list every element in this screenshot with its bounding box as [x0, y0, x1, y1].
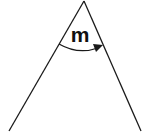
- left-ray: [9, 1, 84, 131]
- arc-arrowhead-icon: [93, 44, 103, 52]
- angle-label: m: [71, 23, 90, 46]
- right-ray: [84, 1, 141, 131]
- angle-diagram: m: [0, 0, 148, 140]
